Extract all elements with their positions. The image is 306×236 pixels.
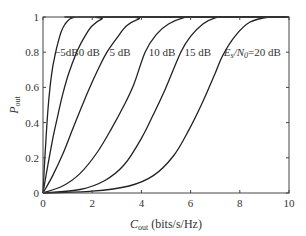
curve-annotations: −5dB0 dB5 dB10 dB15 dBEs/N0=20 dB [54, 46, 281, 60]
axis-ticks [43, 17, 289, 193]
x-tick-label: 8 [237, 197, 243, 209]
y-tick-label: 0.2 [25, 152, 39, 164]
x-tick-label: 0 [40, 197, 46, 209]
y-tick-label: 0.8 [25, 46, 39, 58]
y-axis-label: Pout [7, 95, 22, 114]
x-tick-label: 2 [89, 197, 95, 209]
curve-15-db [43, 17, 289, 193]
curve-10-db [43, 17, 289, 193]
curve--5-db [43, 17, 289, 193]
curve-label: Es/N0=20 dB [223, 46, 281, 60]
curve-label: −5dB [54, 46, 79, 58]
plot-frame [43, 17, 289, 193]
y-tick-label: 0.4 [25, 117, 39, 129]
curve-label: 15 dB [184, 46, 211, 58]
x-axis-label: Cout (bits/s/Hz) [130, 217, 202, 232]
curve-label: 10 dB [149, 46, 176, 58]
x-tick-label: 6 [188, 197, 194, 209]
curve-0-db [43, 17, 289, 193]
tick-labels: 024681000.20.40.60.81 [25, 11, 295, 209]
curve-es-n0-20-db [43, 17, 289, 193]
y-tick-label: 0 [34, 187, 40, 199]
x-tick-label: 4 [139, 197, 145, 209]
series-curves [43, 17, 289, 193]
x-tick-label: 10 [284, 197, 296, 209]
curve-label: 5 dB [109, 46, 130, 58]
curve-5-db [43, 17, 289, 193]
outage-probability-chart: 024681000.20.40.60.81 −5dB0 dB5 dB10 dB1… [0, 0, 306, 236]
curve-label: 0 dB [79, 46, 100, 58]
y-tick-label: 1 [34, 11, 40, 23]
y-tick-label: 0.6 [25, 81, 39, 93]
